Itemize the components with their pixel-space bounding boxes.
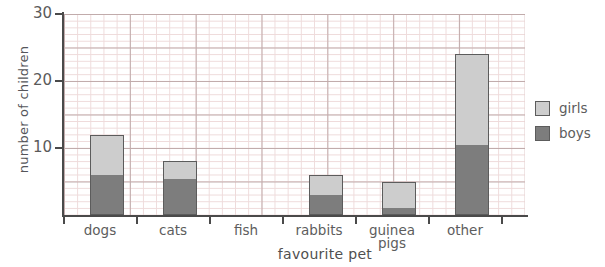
y-tick-label-20: 20 [12,71,52,89]
plot-area [64,14,525,215]
legend-label-boys: boys [559,125,591,141]
bar-segment-girls [164,162,196,178]
x-tick-label-other: other [417,224,513,237]
bar-segment-girls [310,176,342,195]
bar-segment-girls [456,55,488,144]
bar-other[interactable] [455,54,489,215]
y-tick-30 [55,13,64,15]
bar-rabbits[interactable] [309,175,343,215]
x-tick-1 [136,217,138,224]
bar-cats[interactable] [163,161,197,215]
bar-segment-boys [456,145,488,214]
y-axis-line [62,12,64,217]
legend-swatch-girls [535,101,550,116]
x-tick-5 [428,217,430,224]
x-tick-6 [501,217,503,224]
y-tick-10 [55,147,64,149]
bar-segment-boys [310,195,342,214]
y-tick-20 [55,80,64,82]
y-axis-title: number of children [16,15,31,205]
x-axis-line [62,215,528,217]
bar-segment-boys [164,179,196,214]
legend-label-girls: girls [559,100,588,116]
legend-item-boys[interactable]: boys [535,125,591,141]
y-tick-label-30: 30 [12,4,52,22]
x-tick-0 [63,217,65,224]
bar-guinea-pigs[interactable] [382,182,416,216]
bar-segment-girls [91,136,123,175]
bar-dogs[interactable] [90,135,124,215]
legend-item-girls[interactable]: girls [535,100,591,116]
bar-segment-boys [383,208,415,214]
x-tick-2 [209,217,211,224]
legend: girls boys [535,100,591,150]
x-tick-3 [282,217,284,224]
x-tick-4 [355,217,357,224]
bar-segment-girls [383,183,415,208]
x-axis-title: favourite pet [0,246,605,262]
y-tick-label-10: 10 [12,138,52,156]
legend-swatch-boys [535,126,550,141]
bar-segment-boys [91,175,123,214]
stacked-bar-chart: number of children [0,0,605,267]
